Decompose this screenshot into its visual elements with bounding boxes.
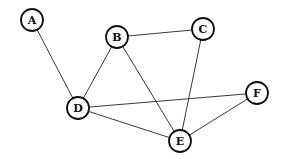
- edge-d-e: [78, 108, 180, 141]
- node-label: B: [112, 31, 121, 44]
- node-c: C: [192, 18, 214, 40]
- edge-b-d: [78, 37, 117, 108]
- edge-b-c: [117, 29, 203, 37]
- node-e: E: [169, 130, 191, 152]
- edges-layer: [32, 20, 257, 141]
- node-label: F: [253, 87, 261, 100]
- node-label: E: [176, 135, 184, 148]
- edge-b-e: [117, 37, 180, 141]
- node-label: A: [27, 14, 37, 27]
- edge-e-f: [180, 93, 257, 141]
- node-label: C: [199, 23, 208, 36]
- node-a: A: [21, 9, 43, 31]
- edge-a-d: [32, 20, 78, 108]
- edge-c-e: [180, 29, 203, 141]
- nodes-layer: ABCDEF: [21, 9, 268, 152]
- graph-diagram: ABCDEF: [0, 0, 281, 159]
- node-label: D: [73, 102, 83, 115]
- node-d: D: [67, 97, 89, 119]
- node-b: B: [106, 26, 128, 48]
- edge-d-f: [78, 93, 257, 108]
- node-f: F: [246, 82, 268, 104]
